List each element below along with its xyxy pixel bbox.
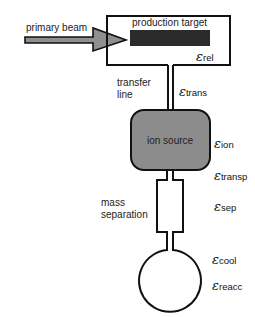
epsilon-symbol: ε <box>214 168 221 183</box>
epsilon-subscript: transp <box>221 171 247 182</box>
epsilon-subscript: ion <box>221 139 234 150</box>
mass-separation-label-2: separation <box>101 209 148 221</box>
epsilon-symbol: ε <box>196 49 203 64</box>
epsilon-subscript: cool <box>219 255 236 266</box>
epsilon-trans: εtrans <box>179 82 207 100</box>
epsilon-subscript: sep <box>221 202 236 213</box>
transfer-line-label-1: transfer <box>117 77 151 89</box>
production-target-bar <box>130 30 210 46</box>
epsilon-ion: εion <box>214 134 234 152</box>
mass-separation-label-1: mass <box>101 197 125 209</box>
diagram-canvas <box>0 0 255 317</box>
production-target-label: production target <box>132 17 207 29</box>
mass-separator-outline <box>157 170 183 243</box>
reacceleration-ring <box>139 243 201 312</box>
epsilon-symbol: ε <box>179 84 186 99</box>
epsilon-symbol: ε <box>214 136 221 151</box>
epsilon-reacc: εreacc <box>212 276 242 294</box>
epsilon-subscript: reacc <box>219 281 242 292</box>
epsilon-subscript: trans <box>186 87 207 98</box>
epsilon-symbol: ε <box>214 199 221 214</box>
epsilon-symbol: ε <box>212 252 219 267</box>
epsilon-cool: εcool <box>212 250 236 268</box>
epsilon-rel: εrel <box>196 47 214 65</box>
epsilon-sep: εsep <box>214 197 236 215</box>
primary-beam-label: primary beam <box>26 22 87 34</box>
epsilon-symbol: ε <box>212 278 219 293</box>
ion-source-label: ion source <box>147 135 193 147</box>
epsilon-transp: εtransp <box>214 166 247 184</box>
transfer-line-label-2: line <box>117 89 133 101</box>
epsilon-subscript: rel <box>203 52 214 63</box>
